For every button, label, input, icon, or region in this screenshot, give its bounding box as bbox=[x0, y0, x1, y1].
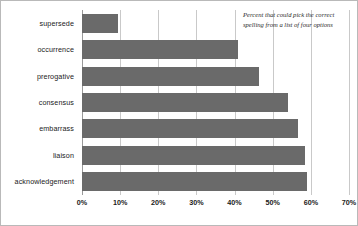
x-tick-label-10: 10% bbox=[113, 198, 127, 207]
category-label-embarrass: embarrass bbox=[39, 124, 74, 133]
bars-series bbox=[82, 10, 349, 195]
category-label-row: acknowledgement bbox=[1, 169, 78, 195]
bar-row bbox=[82, 142, 349, 168]
x-tick-label-0: 0% bbox=[77, 198, 87, 207]
bar-acknowledgement bbox=[82, 172, 307, 191]
category-label-row: embarrass bbox=[1, 116, 78, 142]
category-axis-labels: supersede occurrence prerogative consens… bbox=[1, 10, 78, 195]
gridline-70 bbox=[349, 10, 350, 195]
x-tick-label-40: 40% bbox=[227, 198, 241, 207]
chart-annotation: Percent that could pick the correctspell… bbox=[243, 10, 355, 30]
category-label-supersede: supersede bbox=[40, 19, 74, 28]
bar-embarrass bbox=[82, 119, 298, 138]
category-label-consensus: consensus bbox=[39, 98, 74, 107]
category-label-acknowledgement: acknowledgement bbox=[15, 177, 74, 186]
value-axis-labels: 0%10%20%30%40%50%60%70% bbox=[82, 198, 349, 212]
category-label-occurrence: occurrence bbox=[37, 45, 74, 54]
category-label-row: prerogative bbox=[1, 63, 78, 89]
category-label-row: occurrence bbox=[1, 36, 78, 62]
annotation-line: spelling from a list of four options bbox=[243, 20, 355, 30]
bar-supersede bbox=[82, 14, 118, 33]
x-tick-label-60: 60% bbox=[304, 198, 318, 207]
bar-consensus bbox=[82, 93, 288, 112]
bar-row bbox=[82, 169, 349, 195]
x-tick-label-50: 50% bbox=[266, 198, 280, 207]
plot-area bbox=[82, 10, 349, 195]
x-tick-label-70: 70% bbox=[342, 198, 356, 207]
category-label-row: liaison bbox=[1, 142, 78, 168]
x-tick-label-20: 20% bbox=[151, 198, 165, 207]
category-label-prerogative: prerogative bbox=[37, 72, 74, 81]
bar-row bbox=[82, 63, 349, 89]
x-tick-label-30: 30% bbox=[189, 198, 203, 207]
bar-row bbox=[82, 116, 349, 142]
bar-chart: supersede occurrence prerogative consens… bbox=[0, 0, 358, 226]
bar-prerogative bbox=[82, 67, 259, 86]
bar-occurrence bbox=[82, 40, 238, 59]
bar-row bbox=[82, 89, 349, 115]
category-label-row: supersede bbox=[1, 10, 78, 36]
bar-liaison bbox=[82, 146, 305, 165]
annotation-line: Percent that could pick the correct bbox=[243, 10, 355, 20]
bar-row bbox=[82, 36, 349, 62]
category-label-row: consensus bbox=[1, 89, 78, 115]
category-label-liaison: liaison bbox=[53, 151, 74, 160]
